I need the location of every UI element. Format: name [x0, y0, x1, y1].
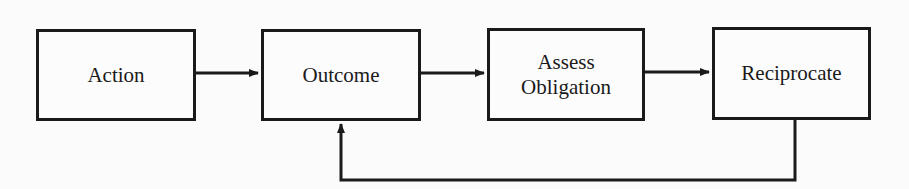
- node-reciprocate: Reciprocate: [712, 27, 871, 120]
- node-action: Action: [36, 29, 196, 121]
- feedback-arrow-reciprocate-to-outcome: [341, 119, 795, 180]
- node-assess-obligation: Assess Obligation: [487, 28, 645, 121]
- node-outcome: Outcome: [261, 29, 421, 121]
- node-action-label: Action: [87, 63, 144, 88]
- node-assess-obligation-label: Assess Obligation: [521, 50, 611, 100]
- node-outcome-label: Outcome: [303, 63, 380, 88]
- node-reciprocate-label: Reciprocate: [741, 61, 841, 86]
